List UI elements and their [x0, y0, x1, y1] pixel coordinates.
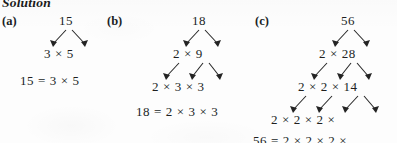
part-c-label: (c) [255, 14, 269, 29]
part-a-label: (a) [2, 14, 17, 29]
factor-tree-b-level-2: 2 × 3 × 3 [152, 79, 205, 95]
factor-tree-c-level-0: 56 [341, 13, 355, 29]
factor-tree-a-level-0: 15 [59, 13, 73, 29]
equation-b: 18 = 2 × 3 × 3 [136, 104, 218, 120]
factor-tree-c-level-1: 2 × 28 [319, 46, 356, 62]
solution-heading: Solution [2, 0, 51, 11]
factor-tree-c-level-2: 2 × 2 × 14 [298, 79, 358, 95]
factor-tree-b-level-1: 2 × 9 [173, 46, 203, 62]
factor-tree-b-level-0: 18 [192, 13, 206, 29]
part-b-label: (b) [107, 14, 122, 29]
equation-c: 56 = 2 × 2 × 2 × [253, 133, 347, 143]
factor-tree-a-level-1: 3 × 5 [44, 46, 74, 62]
equation-a: 15 = 3 × 5 [20, 73, 80, 89]
factor-tree-c-level-3: 2 × 2 × 2 × [271, 112, 335, 128]
scanned-page: Solution (a) 15 3 × 5 15 = 3 × 5 (b) 18 … [0, 0, 397, 143]
